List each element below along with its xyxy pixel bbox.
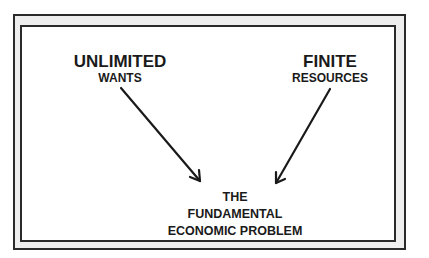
center-line-3: ECONOMIC PROBLEM bbox=[160, 223, 310, 240]
node-fundamental-problem: THE FUNDAMENTAL ECONOMIC PROBLEM bbox=[160, 189, 310, 240]
arrow-wants-to-problem bbox=[121, 88, 200, 181]
arrow-resources-to-problem bbox=[276, 89, 330, 183]
center-line-2: FUNDAMENTAL bbox=[160, 206, 310, 223]
center-line-1: THE bbox=[160, 189, 310, 206]
